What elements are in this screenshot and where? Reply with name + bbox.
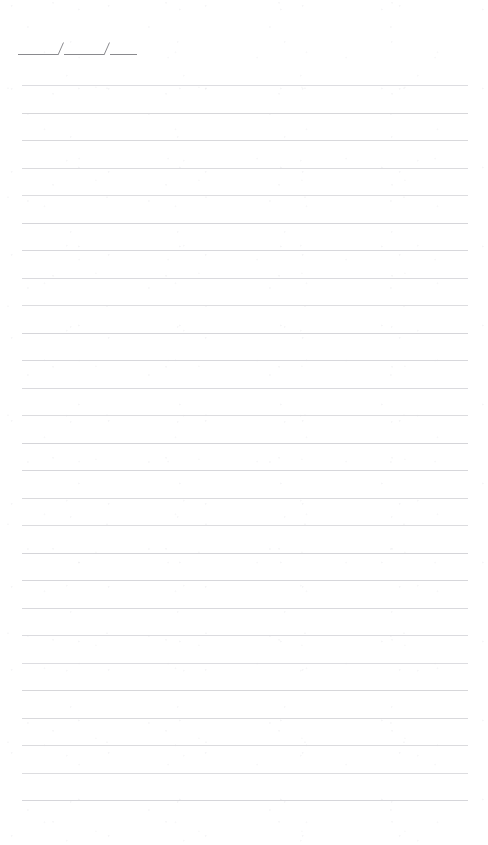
ruled-line[interactable]: [22, 580, 468, 581]
ruled-line[interactable]: [22, 195, 468, 196]
ruled-line[interactable]: [22, 223, 468, 224]
ruled-line[interactable]: [22, 140, 468, 141]
ruled-line[interactable]: [22, 470, 468, 471]
date-slash-1: [58, 43, 64, 55]
date-slash-2: [104, 43, 110, 55]
ruled-line[interactable]: [22, 800, 468, 801]
date-segment-1[interactable]: [18, 54, 58, 55]
ruled-line[interactable]: [22, 718, 468, 719]
ruled-line[interactable]: [22, 745, 468, 746]
ruled-line[interactable]: [22, 278, 468, 279]
date-segment-2[interactable]: [64, 54, 104, 55]
ruled-line[interactable]: [22, 608, 468, 609]
ruled-line[interactable]: [22, 360, 468, 361]
ruled-line[interactable]: [22, 85, 468, 86]
ruled-line[interactable]: [22, 250, 468, 251]
ruled-line[interactable]: [22, 498, 468, 499]
ruled-line[interactable]: [22, 333, 468, 334]
ruled-line[interactable]: [22, 415, 468, 416]
ruled-line[interactable]: [22, 305, 468, 306]
date-field[interactable]: [18, 39, 137, 55]
ruled-line[interactable]: [22, 388, 468, 389]
ruled-line[interactable]: [22, 773, 468, 774]
ruled-line[interactable]: [22, 635, 468, 636]
ruled-line[interactable]: [22, 168, 468, 169]
ruled-line[interactable]: [22, 525, 468, 526]
ruled-line[interactable]: [22, 663, 468, 664]
ruled-line[interactable]: [22, 443, 468, 444]
ruled-line[interactable]: [22, 553, 468, 554]
note-page: [0, 0, 488, 845]
ruled-line[interactable]: [22, 690, 468, 691]
ruled-line[interactable]: [22, 113, 468, 114]
date-segment-3[interactable]: [110, 54, 137, 55]
